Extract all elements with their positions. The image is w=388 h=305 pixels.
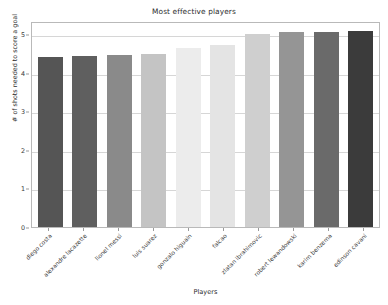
y-axis-ticks: 012345	[0, 22, 29, 228]
x-tick-label-text: luis suarez	[132, 233, 158, 259]
y-tick-mark	[26, 73, 29, 74]
x-tick-label-text: falcao	[211, 233, 228, 250]
chart-title: Most effective players	[0, 7, 388, 16]
bar[interactable]	[176, 48, 201, 227]
x-tick-label-text: edinson cavani	[332, 233, 368, 269]
y-tick-mark	[26, 228, 29, 229]
bar[interactable]	[38, 57, 63, 227]
bar[interactable]	[210, 45, 235, 228]
y-tick-label: 3	[21, 108, 25, 116]
bar[interactable]	[141, 54, 166, 227]
x-axis-ticks: diego costaalexandre lacazettelionel mes…	[31, 228, 380, 286]
y-tick-mark	[26, 35, 29, 36]
chart-figure: Most effective players # of shots needed…	[0, 0, 388, 305]
x-tick-label-text: diego costa	[25, 233, 53, 261]
y-tick-label: 5	[21, 31, 25, 39]
y-tick-mark	[26, 150, 29, 151]
y-tick-mark	[26, 189, 29, 190]
x-tick-label-text: gonzalo higuain	[156, 233, 193, 270]
y-tick-label: 4	[21, 70, 25, 78]
x-tick-label-text: karim benzema	[296, 233, 333, 270]
x-tick-label-text: lionel messi	[94, 233, 123, 262]
bar[interactable]	[245, 34, 270, 227]
x-axis-label: Players	[31, 288, 380, 296]
y-tick-label: 2	[21, 147, 25, 155]
y-tick-mark	[26, 112, 29, 113]
y-tick-label: 0	[21, 224, 25, 232]
bar[interactable]	[348, 31, 373, 227]
bar[interactable]	[72, 56, 97, 227]
y-tick-label: 1	[21, 185, 25, 193]
